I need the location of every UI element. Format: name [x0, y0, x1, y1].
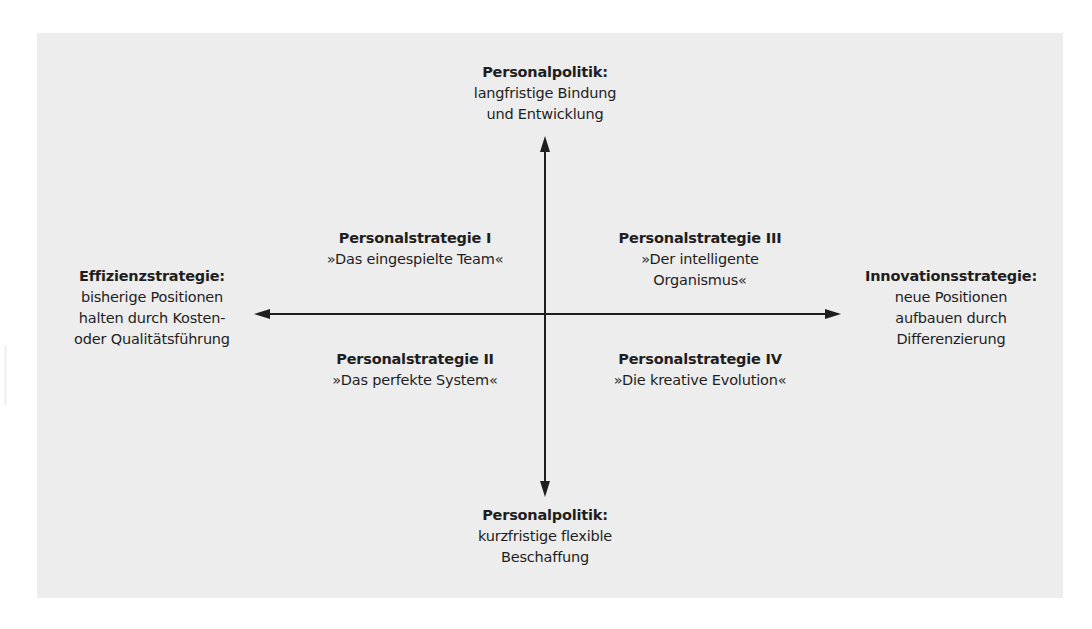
quadrant-bottom-left-title: Personalstrategie II: [305, 349, 525, 370]
quadrant-top-right: Personalstrategie III »Der intelligente …: [595, 228, 805, 291]
quadrant-bottom-right-title: Personalstrategie IV: [585, 349, 815, 370]
quadrant-top-right-line: »Der intelligente: [595, 249, 805, 270]
quadrant-top-left-title: Personalstrategie I: [305, 228, 525, 249]
quadrant-top-left: Personalstrategie I »Das eingespielte Te…: [305, 228, 525, 270]
quadrant-top-left-line: »Das eingespielte Team«: [305, 249, 525, 270]
quadrant-top-right-line: Organismus«: [595, 270, 805, 291]
axis-label-top-title: Personalpolitik:: [445, 62, 645, 83]
axis-label-left: Effizienzstrategie: bisherige Positionen…: [44, 266, 260, 350]
quadrant-bottom-left: Personalstrategie II »Das perfekte Syste…: [305, 349, 525, 391]
axis-label-bottom-line: kurzfristige flexible: [445, 526, 645, 547]
arrow-right-icon: [825, 309, 841, 319]
axis-label-top: Personalpolitik: langfristige Bindung un…: [445, 62, 645, 125]
axis-label-right-title: Innovationsstrategie:: [846, 266, 1056, 287]
axis-label-left-line: halten durch Kosten-: [44, 308, 260, 329]
axis-label-right-line: Differenzierung: [846, 329, 1056, 350]
quadrant-bottom-right: Personalstrategie IV »Die kreative Evolu…: [585, 349, 815, 391]
quadrant-top-right-title: Personalstrategie III: [595, 228, 805, 249]
axis-label-left-line: bisherige Positionen: [44, 287, 260, 308]
quadrant-bottom-right-line: »Die kreative Evolution«: [585, 370, 815, 391]
axis-label-right-line: neue Positionen: [846, 287, 1056, 308]
axis-label-bottom: Personalpolitik: kurzfristige flexible B…: [445, 505, 645, 568]
arrow-down-icon: [540, 481, 550, 497]
quadrant-bottom-left-line: »Das perfekte System«: [305, 370, 525, 391]
arrow-up-icon: [540, 136, 550, 152]
axis-label-bottom-title: Personalpolitik:: [445, 505, 645, 526]
axis-label-right: Innovationsstrategie: neue Positionen au…: [846, 266, 1056, 350]
horizontal-axis: [254, 309, 841, 319]
axis-label-left-title: Effizienzstrategie:: [44, 266, 260, 287]
axis-label-top-line: langfristige Bindung: [445, 83, 645, 104]
axis-label-left-line: oder Qualitätsführung: [44, 329, 260, 350]
axis-label-top-line: und Entwicklung: [445, 104, 645, 125]
axis-label-right-line: aufbauen durch: [846, 308, 1056, 329]
vertical-axis: [540, 136, 550, 497]
axis-label-bottom-line: Beschaffung: [445, 547, 645, 568]
